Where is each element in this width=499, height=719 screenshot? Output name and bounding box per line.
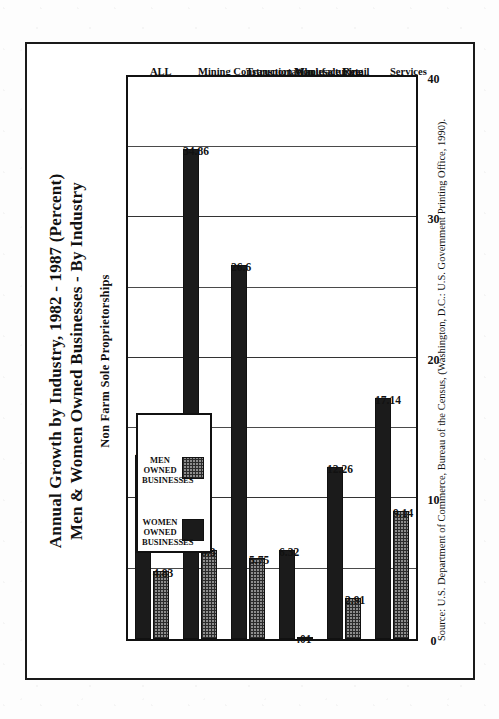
axis-tick-label: 0	[424, 634, 444, 649]
bar-value-label: 17.14	[375, 394, 401, 406]
bar-men	[153, 571, 169, 639]
legend-label: WOMEN OWNED BUSINESSES	[142, 517, 178, 547]
category-label: Fire	[342, 66, 360, 77]
legend-label: MEN OWNED BUSINESSES	[142, 455, 178, 485]
chart-title-line-2: Men & Women Owned Businesses - By Indust…	[67, 51, 87, 671]
bar-value-label: 26.6	[231, 261, 251, 273]
gridline	[128, 287, 416, 288]
bar-women	[375, 398, 391, 639]
bar-men	[201, 551, 217, 640]
axis-tick-label: 30	[424, 212, 444, 227]
chart-legend: WOMEN OWNED BUSINESSESMEN OWNED BUSINESS…	[136, 413, 212, 553]
bar-value-label: 12.26	[327, 463, 353, 475]
bar-value-label: 6.32	[279, 546, 299, 558]
bar-value-label: 5.75	[249, 554, 269, 566]
bar-men	[249, 558, 265, 639]
bar-value-label: .01	[297, 634, 311, 646]
scanned-page: Annual Growth by Industry, 1982 - 1987 (…	[0, 0, 499, 719]
bar-women	[231, 265, 247, 639]
bar-value-label: 2.91	[345, 594, 365, 606]
page-border: Annual Growth by Industry, 1982 - 1987 (…	[25, 42, 475, 680]
bar-women	[327, 467, 343, 639]
bar-women	[279, 550, 295, 639]
bar-value-label: 4.83	[153, 567, 173, 579]
gridline	[128, 357, 416, 358]
bar-value-label: 34.86	[183, 145, 209, 157]
bar-men	[393, 511, 409, 639]
rotated-figure: Annual Growth by Industry, 1982 - 1987 (…	[40, 51, 460, 671]
axis-tick-label: 20	[424, 353, 444, 368]
category-label: ALL	[150, 66, 172, 77]
axis-tick-label: 10	[424, 493, 444, 508]
category-label: Services	[390, 66, 427, 77]
chart-subtitle: Non Farm Sole Proprietorships	[98, 51, 113, 671]
gridline	[128, 146, 416, 147]
bar-women	[183, 149, 199, 639]
chart-title-line-1: Annual Growth by Industry, 1982 - 1987 (…	[46, 51, 66, 671]
gridline	[128, 217, 416, 218]
plot-inner: 13.14.8334.866.326.65.756.32.0112.262.91…	[128, 77, 416, 639]
bar-value-label: 9.14	[393, 507, 413, 519]
axis-tick-label: 40	[424, 72, 444, 87]
plot-area: 13.14.8334.866.326.65.756.32.0112.262.91…	[126, 75, 418, 641]
